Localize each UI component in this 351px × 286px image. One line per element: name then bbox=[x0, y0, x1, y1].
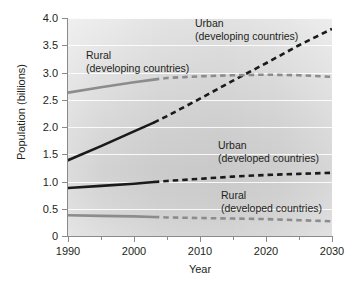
x-axis-tick bbox=[68, 237, 69, 242]
y-axis-tick-label: 0.5 bbox=[43, 204, 58, 215]
x-axis-minor-tick bbox=[299, 237, 300, 240]
series-line-1-historical bbox=[68, 123, 154, 161]
y-axis-tick bbox=[62, 100, 68, 101]
annotation-line-1: Rural bbox=[221, 189, 322, 202]
x-axis-minor-tick bbox=[167, 237, 168, 240]
annotation-rural-developing: Rural (developing countries) bbox=[86, 49, 189, 74]
x-axis-tick bbox=[134, 237, 135, 242]
annotation-urban-developing: Urban (developing countries) bbox=[195, 17, 298, 42]
y-axis-tick bbox=[62, 127, 68, 128]
y-axis-tick-label: 1.5 bbox=[43, 149, 58, 160]
annotation-line-2: (developed countries) bbox=[218, 152, 319, 165]
annotation-rural-developed: Rural (developed countries) bbox=[221, 189, 322, 214]
x-axis-title: Year bbox=[68, 263, 332, 275]
y-axis-tick-label: 2.0 bbox=[43, 122, 58, 133]
y-axis-tick-label: 1.0 bbox=[43, 177, 58, 188]
y-axis-tick bbox=[62, 18, 68, 19]
x-axis-tick bbox=[266, 237, 267, 242]
y-axis-tick bbox=[62, 182, 68, 183]
annotation-line-2: (developing countries) bbox=[86, 62, 189, 75]
y-axis-tick-label: 0 bbox=[52, 231, 58, 242]
annotation-line-1: Rural bbox=[86, 49, 189, 62]
y-axis-tick bbox=[62, 209, 68, 210]
series-line-3-projected bbox=[154, 173, 332, 182]
y-axis-tick-label: 4.0 bbox=[43, 13, 58, 24]
x-axis-tick-label: 2010 bbox=[188, 245, 212, 257]
annotation-urban-developed: Urban (developed countries) bbox=[218, 139, 319, 164]
y-axis-tick bbox=[62, 73, 68, 74]
series-line-4-historical bbox=[68, 215, 154, 217]
y-axis-tick-label: 2.5 bbox=[43, 95, 58, 106]
y-axis-tick bbox=[62, 154, 68, 155]
x-axis-tick-label: 2000 bbox=[122, 245, 146, 257]
series-line-3-historical bbox=[68, 182, 154, 188]
x-axis-tick-label: 2020 bbox=[254, 245, 278, 257]
y-axis-tick-label: 3.5 bbox=[43, 40, 58, 51]
y-axis-tick-label: 3.0 bbox=[43, 68, 58, 79]
x-axis-minor-tick bbox=[101, 237, 102, 240]
series-line-2-projected bbox=[154, 75, 332, 80]
annotation-line-2: (developing countries) bbox=[195, 30, 298, 43]
y-axis-tick bbox=[62, 45, 68, 46]
series-line-4-projected bbox=[154, 217, 332, 221]
y-axis-title: Population (billions) bbox=[15, 47, 27, 177]
x-axis-tick-label: 1990 bbox=[56, 245, 80, 257]
x-axis-minor-tick bbox=[233, 237, 234, 240]
x-axis-tick bbox=[200, 237, 201, 242]
x-axis-tick bbox=[332, 237, 333, 242]
annotation-line-2: (developed countries) bbox=[221, 202, 322, 215]
series-line-2-historical bbox=[68, 80, 154, 93]
chart-screenshot: 00.51.01.52.02.53.03.54.0 19902000201020… bbox=[0, 0, 351, 286]
x-axis-tick-label: 2030 bbox=[320, 245, 344, 257]
annotation-line-1: Urban bbox=[195, 17, 298, 30]
annotation-line-1: Urban bbox=[218, 139, 319, 152]
